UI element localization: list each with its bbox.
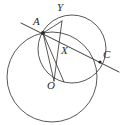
chord-a-lower-arc [43,33,64,82]
label-point-c: C [103,49,110,60]
label-point-y: Y [57,2,63,13]
label-point-x: X [61,45,68,56]
label-point-o: O [47,80,55,91]
label-point-a: A [33,16,40,27]
geometry-canvas [0,0,125,125]
point-c-dot [98,60,101,63]
geometry-figure: A Y X C O [0,0,125,125]
point-a-dot [41,31,45,35]
